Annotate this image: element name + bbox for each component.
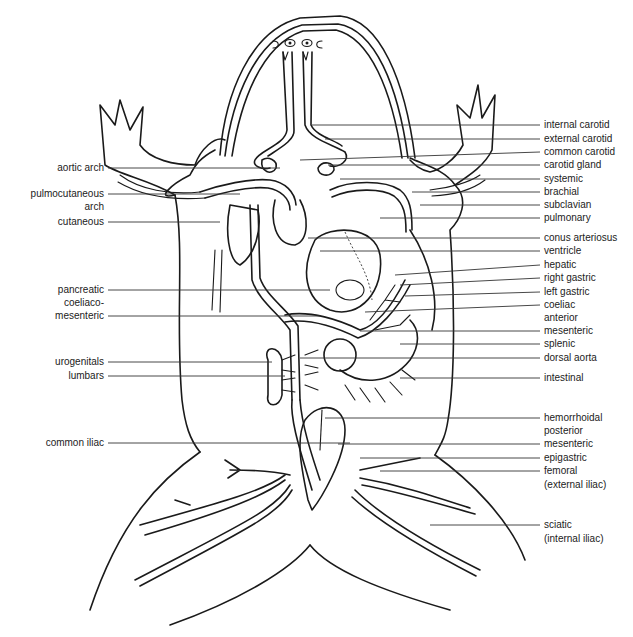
label-aortic-arch: aortic arch	[57, 162, 104, 174]
label-pancreatic: pancreatic	[58, 284, 104, 296]
right-leader-lines	[300, 125, 540, 525]
label-lumbars: lumbars	[68, 370, 104, 382]
label-anterior: anterior	[544, 312, 578, 324]
label-urogenitals: urogenitals	[55, 356, 104, 368]
head-outline	[220, 16, 415, 158]
label-posterior-mesenteric: mesenteric	[544, 438, 593, 450]
label-subclavian: subclavian	[544, 199, 591, 211]
label-coeliaco-mesenteric: mesenteric	[55, 310, 104, 322]
label-pulmonary: pulmonary	[544, 212, 591, 224]
cloaca	[292, 400, 345, 510]
body-outline	[90, 150, 525, 625]
label-dorsal-aorta: dorsal aorta	[544, 352, 597, 364]
label-cutaneous: cutaneous	[58, 216, 104, 228]
label-femoral: femoral	[544, 465, 577, 477]
label-common-carotid: common carotid	[544, 146, 615, 158]
label-coeliac: coeliac	[544, 299, 575, 311]
carotid-vessels	[254, 52, 346, 175]
label-hepatic: hepatic	[544, 259, 576, 271]
label-common-iliac: common iliac	[46, 437, 104, 449]
label-epigastric: epigastric	[544, 452, 587, 464]
left-arm	[100, 100, 225, 199]
label-coeliaco: coeliaco-	[64, 297, 104, 309]
visceral-arteries	[285, 280, 418, 402]
label-pulmocutaneous-arch: arch	[85, 201, 104, 213]
label-intestinal: intestinal	[544, 372, 583, 384]
label-hemorrhoidal: hemorrhoidal	[544, 412, 602, 424]
label-sciatic: sciatic	[544, 519, 572, 531]
label-conus-arteriosus: conus arteriosus	[544, 232, 617, 244]
label-external-iliac: (external iliac)	[544, 479, 606, 491]
label-right-gastric: right gastric	[544, 272, 596, 284]
label-carotid-gland: carotid gland	[544, 159, 601, 171]
label-splenic: splenic	[544, 338, 575, 350]
label-pulmocutaneous: pulmocutaneous	[31, 188, 104, 200]
label-ventricle: ventricle	[544, 245, 581, 257]
label-internal-carotid: internal carotid	[544, 119, 610, 131]
label-posterior: posterior	[544, 425, 583, 437]
label-brachial: brachial	[544, 186, 579, 198]
label-external-carotid: external carotid	[544, 133, 612, 145]
label-anterior-mesenteric: mesenteric	[544, 325, 593, 337]
label-internal-iliac: (internal iliac)	[544, 533, 603, 545]
label-left-gastric: left gastric	[544, 286, 590, 298]
label-systemic: systemic	[544, 173, 583, 185]
